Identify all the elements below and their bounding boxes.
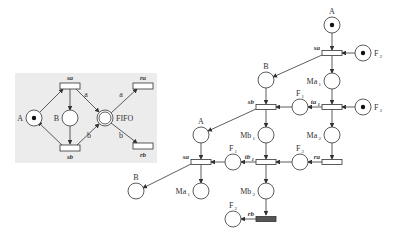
- transition-label: sb: [66, 153, 74, 161]
- arc-label: a: [84, 90, 88, 99]
- place-label: A: [329, 7, 335, 16]
- place-F2c: F 2: [292, 144, 308, 170]
- place-F1a: F 1: [292, 89, 308, 115]
- transition-label: sa: [182, 153, 190, 161]
- token-icon: [361, 105, 365, 109]
- transition-ta1: ta 1: [311, 98, 342, 110]
- place-label: F 2: [374, 103, 383, 113]
- place-label: Mb 1: [240, 131, 255, 141]
- main-nodes: AF 2BMa 1F 1F 2Mb 1Ma 2AF 1F 2BMa 1Mb 2F…: [128, 7, 383, 227]
- place-label: Ma 1: [176, 187, 191, 197]
- transition-label: ra: [314, 153, 321, 161]
- place-Ma1a: Ma 1: [307, 73, 340, 89]
- place-B2: B: [128, 173, 144, 199]
- token-icon: [32, 116, 36, 120]
- place-label: B: [263, 62, 268, 71]
- place-A2: A: [193, 117, 209, 143]
- arc-label: a: [119, 90, 123, 99]
- place-Mb1: Mb 1: [240, 127, 274, 143]
- place-label: A: [17, 114, 23, 123]
- transition-sa2: sa: [182, 153, 211, 165]
- place-label: F 1: [229, 144, 238, 154]
- transition-sb: sb: [247, 98, 276, 110]
- transition-label: rb: [248, 210, 255, 218]
- place-label: F 2: [229, 201, 238, 211]
- arc-label: b: [87, 131, 91, 140]
- place-F2d: F 2: [225, 201, 241, 227]
- place-label: A: [198, 117, 204, 126]
- place-F2a: F 2: [355, 45, 383, 61]
- transition-label: tb 1: [245, 153, 254, 162]
- transition-label: rb: [140, 151, 147, 159]
- place-F2b: F 2: [355, 99, 383, 115]
- place-label: FIFO: [116, 114, 134, 123]
- place-label: B: [133, 173, 138, 182]
- place-label: B: [54, 114, 59, 123]
- token-icon: [361, 51, 365, 55]
- transition-label: sb: [247, 98, 255, 106]
- place-label: Mb 2: [240, 187, 255, 197]
- place-Ma2: Ma 2: [307, 127, 340, 143]
- transition-sa1: sa: [313, 44, 342, 56]
- transition-rb: rb: [248, 210, 276, 222]
- place-Mb2: Mb 2: [240, 183, 274, 199]
- transition-label: ra: [140, 74, 147, 82]
- place-label: F 2: [296, 144, 305, 154]
- place-Ma1b: Ma 1: [176, 183, 209, 199]
- place-F1b: F 1: [225, 144, 241, 170]
- transition-label: sa: [313, 44, 321, 52]
- petri-net-diagram: ABFIFOsasbrarbabab AF 2BMa 1F 1F 2Mb 1Ma…: [0, 0, 394, 238]
- place-label: Ma 1: [307, 77, 322, 87]
- token-icon: [330, 23, 334, 27]
- transition-tb1: tb 1: [245, 153, 276, 165]
- place-A1: A: [324, 7, 340, 33]
- place-label: Ma 2: [307, 131, 322, 141]
- transition-label: sa: [66, 74, 74, 82]
- transition-label: ta 1: [311, 98, 320, 107]
- place-label: F 2: [374, 49, 383, 59]
- transition-ra: ra: [314, 153, 342, 165]
- place-B1: B: [258, 62, 274, 88]
- place-label: F 1: [296, 89, 305, 99]
- arc-label: b: [119, 131, 123, 140]
